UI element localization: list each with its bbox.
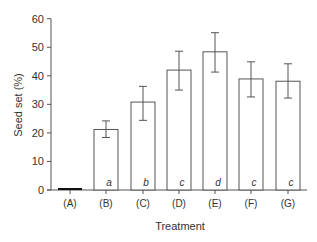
y-tick-label: 60 xyxy=(32,13,44,25)
x-tick-label: (F) xyxy=(245,198,258,209)
significance-letter: b xyxy=(143,177,149,188)
x-axis-label: Treatment xyxy=(155,220,205,232)
bars: abcdcc xyxy=(58,33,300,190)
x-tick-label: (D) xyxy=(172,198,186,209)
x-tick-label: (E) xyxy=(208,198,221,209)
y-axis-label: Seed set (%) xyxy=(12,73,24,137)
y-tick-label: 10 xyxy=(32,155,44,167)
significance-letter: a xyxy=(106,177,112,188)
significance-letter: c xyxy=(252,177,257,188)
x-tick-label: (B) xyxy=(99,198,112,209)
bar-a xyxy=(58,188,82,190)
x-tick-label: (G) xyxy=(281,198,295,209)
significance-letter: c xyxy=(180,177,185,188)
y-tick-label: 50 xyxy=(32,41,44,53)
x-axis: (A)(B)(C)(D)(E)(F)(G) xyxy=(47,190,307,209)
x-tick-label: (C) xyxy=(136,198,150,209)
seed-set-bar-chart: 0102030405060 (A)(B)(C)(D)(E)(F)(G) abcd… xyxy=(0,0,317,242)
y-tick-label: 20 xyxy=(32,127,44,139)
y-axis: 0102030405060 xyxy=(32,13,51,196)
x-tick-label: (A) xyxy=(63,198,76,209)
significance-letter: c xyxy=(289,177,294,188)
significance-letter: d xyxy=(215,177,221,188)
y-tick-label: 40 xyxy=(32,70,44,82)
y-tick-label: 30 xyxy=(32,98,44,110)
y-tick-label: 0 xyxy=(38,184,44,196)
